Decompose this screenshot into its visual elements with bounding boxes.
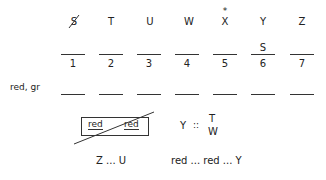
letter-3: U xyxy=(137,16,163,27)
number-6: 6 xyxy=(250,58,276,69)
star-marker: * xyxy=(212,6,238,16)
letter-2: T xyxy=(98,16,124,27)
row-slot-6 xyxy=(251,94,275,95)
rule-top: T xyxy=(209,113,215,124)
row-slot-4 xyxy=(175,94,199,95)
row-slot-7 xyxy=(290,94,314,95)
letter-5: X xyxy=(212,16,238,27)
slot-6 xyxy=(251,54,275,55)
letter-1: S xyxy=(61,16,87,27)
row-slot-2 xyxy=(99,94,123,95)
number-2: 2 xyxy=(98,58,124,69)
letter-6: Y xyxy=(250,16,276,27)
slot-2 xyxy=(99,54,123,55)
number-5: 5 xyxy=(212,58,238,69)
number-3: 3 xyxy=(136,58,162,69)
rule-op: :: xyxy=(193,120,199,130)
number-4: 4 xyxy=(174,58,200,69)
slot-4 xyxy=(175,54,199,55)
row-slot-5 xyxy=(213,94,237,95)
row-slot-1 xyxy=(61,94,85,95)
rule-lhs: Y xyxy=(180,120,186,131)
bottom-left-text: Z ... U xyxy=(96,155,126,166)
slot-5 xyxy=(213,54,237,55)
bottom-right-text: red ... red ... Y xyxy=(171,155,242,166)
row-slot-3 xyxy=(137,94,161,95)
slot-1 xyxy=(61,54,85,55)
strike-icon xyxy=(67,14,81,30)
rule-bottom: W xyxy=(208,126,218,137)
number-7: 7 xyxy=(289,58,315,69)
row-label: red, gr xyxy=(10,82,40,92)
slot-7 xyxy=(290,54,314,55)
strike-line-icon xyxy=(72,110,158,146)
number-1: 1 xyxy=(60,58,86,69)
letter-7: Z xyxy=(289,16,315,27)
letter-4: W xyxy=(176,16,202,27)
slot-label-6: S xyxy=(250,42,276,53)
slot-3 xyxy=(137,54,161,55)
